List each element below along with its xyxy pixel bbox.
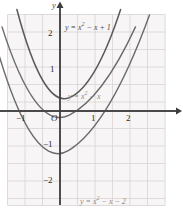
grid-panel xyxy=(8,15,166,206)
y-tick-label-neg1: −1 xyxy=(43,140,53,149)
curve-label-1: y = x2 − x + 1 xyxy=(65,21,111,32)
curve-label-2: y = x2 − x xyxy=(68,90,100,101)
curve-label-3: y = x2 − x − 2 xyxy=(80,195,126,206)
y-tick-label-2: 2 xyxy=(48,29,53,38)
curve-label-2-tail: − x xyxy=(88,92,101,101)
y-tick-label-1: 1 xyxy=(50,65,55,74)
x-tick-label-neg1: −1 xyxy=(16,114,26,123)
y-axis-arrow xyxy=(57,2,64,9)
x-tick-label-2: 2 xyxy=(126,114,131,123)
graph-figure: y O −1 1 2 2 1 −1 −2 y = x2 − x + 1 y = … xyxy=(0,0,183,211)
curve-label-3-head: y = x xyxy=(80,197,97,206)
x-axis-arrow xyxy=(176,108,182,115)
curve-label-3-tail: − x − 2 xyxy=(100,197,126,206)
curve-label-1-tail: − x + 1 xyxy=(85,23,111,32)
curve-label-2-head: y = x xyxy=(68,92,85,101)
y-tick-label-neg2: −2 xyxy=(43,176,53,185)
curve-label-1-head: y = x xyxy=(65,23,82,32)
x-tick-label-1: 1 xyxy=(91,114,96,123)
origin-label: O xyxy=(51,114,58,123)
y-axis-name: y xyxy=(52,1,56,10)
